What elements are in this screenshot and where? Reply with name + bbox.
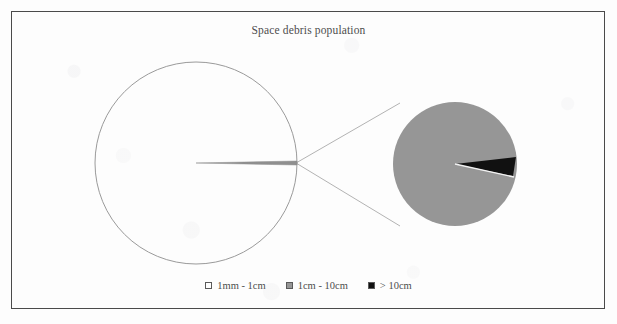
pie-chart-plot-area [0,0,617,324]
legend-swatch-1cm-10cm [286,282,293,289]
legend-swatch-over-10cm [368,282,375,289]
legend-swatch-1mm-1cm [205,282,212,289]
legend-item-over-10cm[interactable]: > 10cm [368,280,412,291]
legend-item-1cm-10cm[interactable]: 1cm - 10cm [286,280,348,291]
detail-pie[interactable] [393,102,517,226]
legend-label-over-10cm: > 10cm [380,280,412,291]
legend-label-1cm-10cm: 1cm - 10cm [298,280,348,291]
space-debris-pie-chart-figure: Space debris population 1mm - 1cm [0,0,617,324]
main-pie[interactable] [95,62,297,264]
chart-title: Space debris population [0,24,617,36]
callout-leader-lines [296,103,400,226]
chart-legend: 1mm - 1cm 1cm - 10cm > 10cm [0,280,617,291]
legend-item-1mm-1cm[interactable]: 1mm - 1cm [205,280,265,291]
legend-label-1mm-1cm: 1mm - 1cm [217,280,265,291]
